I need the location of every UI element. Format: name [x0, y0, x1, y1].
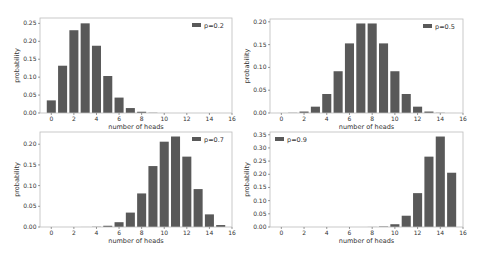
bar — [379, 43, 388, 113]
bar — [58, 66, 67, 113]
x-tick-label: 12 — [414, 229, 422, 236]
x-tick-label: 10 — [391, 115, 399, 122]
subplot-p-02: 02468101214160.000.050.100.150.200.25num… — [13, 18, 236, 131]
legend-swatch — [192, 23, 201, 27]
x-tick-label: 6 — [117, 115, 121, 122]
bar — [334, 71, 343, 113]
y-tick-label: 0.10 — [253, 197, 267, 204]
x-tick-label: 14 — [206, 229, 214, 236]
bar — [390, 71, 399, 113]
legend-label: p=0.9 — [287, 136, 307, 144]
x-tick-label: 16 — [228, 229, 236, 236]
y-tick-label: 0.35 — [253, 131, 267, 138]
y-tick-label: 0.15 — [23, 161, 37, 168]
x-tick-label: 2 — [72, 229, 76, 236]
x-tick-label: 6 — [348, 229, 352, 236]
bar — [413, 193, 422, 227]
subplot-p-07: 02468101214160.000.050.100.150.20number … — [13, 132, 236, 245]
x-tick-label: 4 — [95, 229, 99, 236]
y-tick-label: 0.25 — [23, 19, 37, 26]
legend-label: p=0.5 — [435, 23, 455, 31]
x-tick-label: 14 — [436, 115, 444, 122]
x-tick-label: 8 — [370, 229, 374, 236]
x-tick-label: 12 — [183, 115, 191, 122]
x-tick-label: 12 — [414, 115, 422, 122]
x-tick-label: 6 — [117, 229, 121, 236]
bar — [194, 189, 203, 227]
x-tick-label: 16 — [459, 229, 467, 236]
y-tick-label: 0.05 — [23, 202, 37, 209]
y-axis-label: probability — [13, 162, 21, 197]
legend-swatch — [275, 137, 284, 141]
subplot-p-05: 02468101214160.000.050.100.150.20number … — [243, 18, 467, 131]
bar — [47, 100, 56, 113]
y-tick-label: 0.10 — [253, 63, 267, 70]
x-tick-label: 8 — [140, 115, 144, 122]
x-tick-label: 8 — [370, 115, 374, 122]
bar — [92, 46, 101, 113]
x-tick-label: 12 — [183, 229, 191, 236]
y-tick-label: 0.05 — [23, 91, 37, 98]
bar — [137, 193, 146, 227]
x-tick-label: 2 — [302, 229, 306, 236]
bar — [148, 166, 157, 227]
x-tick-label: 2 — [302, 115, 306, 122]
y-tick-label: 0.15 — [23, 55, 37, 62]
y-tick-label: 0.20 — [23, 140, 37, 147]
bar — [311, 107, 320, 113]
bar — [126, 213, 135, 227]
bar — [160, 142, 169, 227]
x-axis-label: number of heads — [108, 237, 164, 245]
bar — [402, 216, 411, 227]
x-tick-label: 2 — [72, 115, 76, 122]
bar — [402, 94, 411, 113]
bar — [115, 98, 124, 113]
legend-swatch — [192, 137, 201, 141]
x-tick-label: 0 — [279, 115, 283, 122]
y-tick-label: 0.10 — [23, 73, 37, 80]
y-tick-label: 0.00 — [23, 223, 37, 230]
bar — [356, 23, 365, 113]
bar — [205, 214, 214, 227]
bar — [345, 43, 354, 113]
x-tick-label: 14 — [436, 229, 444, 236]
y-tick-label: 0.20 — [253, 170, 267, 177]
x-axis-label: number of heads — [339, 237, 395, 245]
legend-label: p=0.7 — [204, 136, 224, 144]
y-axis-label: probability — [13, 48, 21, 83]
x-tick-label: 4 — [325, 115, 329, 122]
subplot-p-09: 02468101214160.000.050.100.150.200.250.3… — [243, 131, 467, 245]
bar — [69, 30, 78, 113]
y-tick-label: 0.15 — [253, 183, 267, 190]
x-tick-label: 10 — [391, 229, 399, 236]
bar — [115, 222, 124, 227]
x-tick-label: 14 — [206, 115, 214, 122]
legend-label: p=0.2 — [204, 22, 224, 30]
bar — [182, 157, 191, 227]
bar — [171, 137, 180, 227]
x-tick-label: 16 — [459, 115, 467, 122]
y-tick-label: 0.05 — [253, 86, 267, 93]
bar — [424, 157, 433, 227]
x-axis-label: number of heads — [339, 123, 395, 131]
bar — [81, 23, 90, 113]
y-tick-label: 0.10 — [23, 182, 37, 189]
x-tick-label: 0 — [49, 229, 53, 236]
x-tick-label: 16 — [228, 115, 236, 122]
x-tick-label: 10 — [160, 229, 168, 236]
x-tick-label: 0 — [49, 115, 53, 122]
y-axis-label: probability — [243, 49, 251, 84]
y-tick-label: 0.00 — [253, 109, 267, 116]
bar — [436, 137, 445, 227]
y-tick-label: 0.25 — [253, 157, 267, 164]
y-axis-label: probability — [243, 162, 251, 197]
bar — [413, 107, 422, 113]
bar — [103, 76, 112, 113]
y-tick-label: 0.15 — [253, 41, 267, 48]
y-tick-label: 0.00 — [253, 223, 267, 230]
plot-area — [270, 19, 463, 113]
x-tick-label: 0 — [279, 229, 283, 236]
y-tick-label: 0.20 — [23, 37, 37, 44]
x-tick-label: 8 — [140, 229, 144, 236]
y-tick-label: 0.20 — [253, 18, 267, 25]
